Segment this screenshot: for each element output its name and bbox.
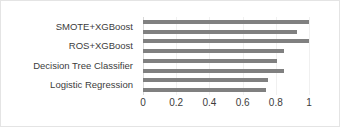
y-axis-category-labels: SMOTE+XGBoostROS+XGBoostDecision Tree Cl…	[1, 17, 139, 95]
category-label: SMOTE+XGBoost	[56, 22, 133, 32]
x-tick-label: 0.4	[202, 98, 216, 108]
bar[interactable]	[143, 20, 309, 24]
bar-row	[143, 49, 309, 53]
x-tick-label: 1	[306, 98, 312, 108]
bar-row	[143, 39, 309, 43]
plot-area	[143, 17, 309, 95]
x-tick-label: 0.6	[236, 98, 250, 108]
bar-row	[143, 78, 309, 82]
x-tick-label: 0	[140, 98, 146, 108]
bar[interactable]	[143, 59, 277, 63]
bar-row	[143, 20, 309, 24]
bar[interactable]	[143, 69, 284, 73]
bar[interactable]	[143, 88, 266, 92]
bar-chart-figure: SMOTE+XGBoostROS+XGBoostDecision Tree Cl…	[0, 0, 340, 127]
bar-row	[143, 59, 309, 63]
x-axis-tick-labels: 00.20.40.60.81	[143, 98, 309, 112]
category-label: Decision Tree Classifier	[33, 61, 133, 71]
x-tick-label: 0.2	[169, 98, 183, 108]
x-tick-label: 0.8	[269, 98, 283, 108]
bar[interactable]	[143, 39, 309, 43]
category-label: Logistic Regression	[50, 80, 133, 90]
category-label: ROS+XGBoost	[69, 41, 133, 51]
bar-row	[143, 88, 309, 92]
bar[interactable]	[143, 49, 284, 53]
gridline-1	[309, 17, 310, 95]
bar-row	[143, 69, 309, 73]
bar-row	[143, 30, 309, 34]
bar[interactable]	[143, 30, 297, 34]
bar[interactable]	[143, 78, 268, 82]
